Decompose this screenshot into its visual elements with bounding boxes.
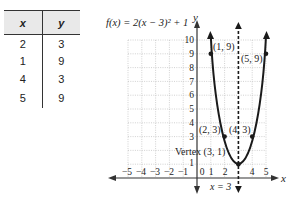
function-label: f(x) = 2(x − 3)² + 1 [106,17,188,29]
svg-text:(1, 9): (1, 9) [213,41,235,53]
point-5-9 [264,52,269,57]
svg-text:Vertex (3, 1): Vertex (3, 1) [175,146,225,158]
point-1-9 [209,52,214,57]
svg-text:−1: −1 [178,167,188,177]
symmetry-arrow-up-icon [235,22,242,29]
svg-text:(5, 9): (5, 9) [241,53,263,65]
y-axis-arrow-down-icon [194,186,200,194]
svg-text:6: 6 [189,90,194,100]
point-vertex [236,162,241,167]
svg-text:(2, 3): (2, 3) [199,124,221,136]
point-labels: (1, 9) (5, 9) (2, 3) (4, 3) Vertex (3, 1… [175,41,263,158]
x-axis-label: x [280,172,286,184]
svg-text:1: 1 [189,158,194,168]
parabola-graph: x y f(x) = 2(x − 3)² + 1 10 9 8 7 6 5 4 … [0,0,299,199]
svg-text:5: 5 [264,167,269,177]
svg-text:7: 7 [189,77,194,87]
svg-text:3: 3 [189,132,194,142]
svg-text:2: 2 [223,167,228,177]
x-tick-labels: −5 −4 −3 −2 −1 0 1 2 4 5 [122,167,269,177]
svg-text:−5: −5 [122,167,132,177]
symmetry-arrow-down-icon [235,186,242,193]
svg-text:9: 9 [189,49,194,59]
svg-text:−2: −2 [164,167,174,177]
svg-text:0: 0 [200,167,205,177]
x-axis-arrow-right-icon [271,175,279,181]
svg-text:(4, 3): (4, 3) [229,124,251,136]
svg-text:10: 10 [185,35,195,45]
svg-text:4: 4 [250,167,255,177]
svg-text:8: 8 [189,63,194,73]
axis-of-symmetry-label: x = 3 [209,181,231,192]
svg-text:−3: −3 [150,167,160,177]
x-axis-arrow-left-icon [108,175,116,181]
curve-arrow-right-icon [263,31,270,39]
curve-arrow-left-icon [207,31,214,39]
svg-text:4: 4 [189,118,194,128]
y-axis-label: y [192,11,198,23]
point-2-3 [222,134,227,139]
svg-text:1: 1 [209,167,214,177]
svg-text:−4: −4 [136,167,146,177]
svg-text:5: 5 [189,104,194,114]
